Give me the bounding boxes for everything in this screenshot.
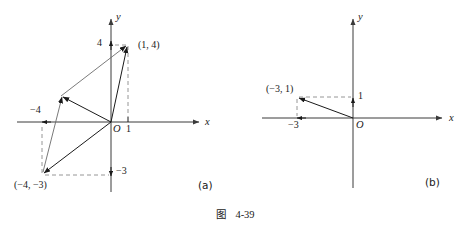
vector-parallelogram-side-lower bbox=[43, 97, 62, 172]
figure-drawing bbox=[0, 0, 471, 234]
panel-b-tick-label-x-neg3: −3 bbox=[288, 120, 299, 130]
panel-a-vectors bbox=[43, 46, 127, 173]
panel-b-y-axis-label: y bbox=[358, 12, 363, 23]
panel-a-origin-label: O bbox=[113, 124, 121, 135]
vector-resultant bbox=[63, 97, 111, 122]
panel-a-tag: (a) bbox=[198, 180, 213, 191]
figure-caption-cjk: 图 bbox=[216, 209, 226, 220]
figure-caption-number: 4-39 bbox=[235, 209, 254, 220]
panel-b-vectors bbox=[299, 98, 353, 118]
panel-a-point-label-1-4: (1, 4) bbox=[138, 40, 160, 50]
panel-b-x-axis-label: x bbox=[449, 113, 454, 124]
vector-to-1-4 bbox=[111, 47, 127, 122]
panel-a-y-axis-label: y bbox=[116, 12, 121, 23]
panel-b-origin-label: O bbox=[356, 120, 364, 131]
panel-b-point-label-neg3-1: (−3, 1) bbox=[266, 84, 293, 94]
vector-to-neg3-1 bbox=[299, 98, 353, 118]
panel-a-tick-label-x-neg4: −4 bbox=[30, 105, 41, 115]
panel-a-dashed-guides bbox=[42, 45, 128, 175]
panel-b-tag: (b) bbox=[425, 177, 440, 188]
panel-a-tick-label-y-neg3: −3 bbox=[116, 166, 127, 176]
panel-a-tick-label-y-4: 4 bbox=[97, 38, 102, 48]
panel-a-tick-label-x-1: 1 bbox=[126, 124, 131, 134]
panel-a-point-label-neg4-neg3: (−4, −3) bbox=[14, 180, 47, 190]
vector-parallelogram-side-upper bbox=[61, 46, 126, 96]
figure-caption: 图4-39 bbox=[0, 206, 471, 221]
panel-b-tick-label-y-1: 1 bbox=[358, 91, 363, 101]
panel-a-x-axis-label: x bbox=[205, 117, 210, 128]
figure-4-39: y x O 4 −3 −4 1 (1, 4) (−4, −3) (a) y x … bbox=[0, 0, 471, 234]
panel-b-axes bbox=[262, 19, 442, 188]
